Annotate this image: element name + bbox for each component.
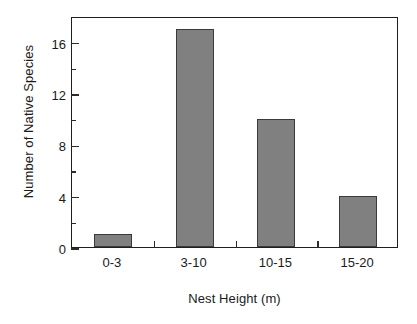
y-tick-mark: [71, 43, 79, 45]
y-tick-label: 0: [59, 242, 66, 257]
y-tick-label: 4: [59, 190, 66, 205]
y-axis-title: Number of Native Species: [21, 12, 36, 232]
x-tick-mark: [236, 241, 238, 248]
x-tick-label: 10-15: [259, 255, 292, 270]
y-tick-mark: [71, 94, 79, 96]
y-tick-minor: [71, 69, 76, 71]
y-tick-label: 16: [52, 36, 66, 51]
bar-chart-figure: Number of Native Species 0481216 0-33-10…: [0, 0, 417, 324]
x-axis-tick-labels: 0-33-1010-1515-20: [71, 255, 398, 275]
y-tick-minor: [71, 120, 76, 122]
x-tick-label: 15-20: [341, 255, 374, 270]
y-tick-label: 8: [59, 139, 66, 154]
x-tick-label: 0-3: [102, 255, 121, 270]
y-tick-minor: [71, 223, 76, 225]
x-tick-mark: [317, 241, 319, 248]
y-tick-mark: [71, 248, 79, 250]
bar: [176, 29, 214, 247]
plot-area: 0481216: [71, 17, 398, 248]
bar: [339, 196, 377, 247]
y-tick-mark: [71, 146, 79, 148]
bar: [94, 234, 132, 247]
y-tick-label: 12: [52, 88, 66, 103]
y-tick-minor: [71, 171, 76, 173]
x-axis-title: Nest Height (m): [71, 291, 398, 306]
bar: [257, 119, 295, 247]
x-tick-mark: [154, 241, 156, 248]
y-tick-mark: [71, 197, 79, 199]
x-tick-label: 3-10: [181, 255, 207, 270]
